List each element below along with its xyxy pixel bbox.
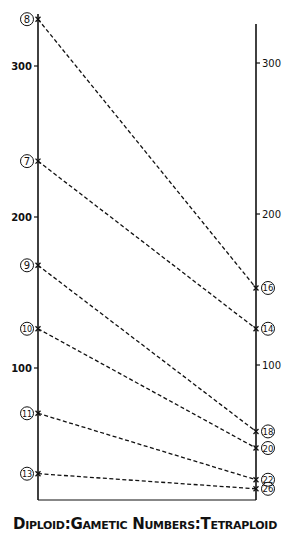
diploid-label: 10 xyxy=(22,325,32,334)
diploid-label: 8 xyxy=(24,14,30,25)
right-tick-label: 200 xyxy=(262,209,281,220)
series-line xyxy=(38,413,256,479)
diploid-label: 13 xyxy=(22,470,32,479)
diploid-label: 11 xyxy=(22,410,32,419)
chart-canvas: 100200300100200300816714918102011221326 xyxy=(0,0,290,542)
tetraploid-label: 14 xyxy=(263,324,274,334)
series-line xyxy=(38,329,256,448)
left-tick-label: 100 xyxy=(11,363,32,374)
diploid-label: 7 xyxy=(24,156,30,167)
right-tick-label: 100 xyxy=(262,360,281,371)
tetraploid-label: 16 xyxy=(263,283,274,293)
tetraploid-label: 26 xyxy=(263,484,274,494)
caption-diploid: Diploid xyxy=(13,515,65,533)
tetraploid-label: 18 xyxy=(263,427,274,437)
right-tick-label: 300 xyxy=(262,58,281,69)
series-line xyxy=(38,265,256,431)
tetraploid-label: 20 xyxy=(263,444,274,454)
left-tick-label: 300 xyxy=(11,61,32,72)
series-line xyxy=(38,161,256,329)
caption-tetraploid: Tetraploid xyxy=(201,515,278,533)
diploid-label: 9 xyxy=(24,260,30,271)
caption-gametic-numbers: Gametic Numbers xyxy=(70,515,194,533)
series-line xyxy=(38,19,256,288)
series-line xyxy=(38,474,256,489)
chart-caption: Diploid:Gametic Numbers:Tetraploid xyxy=(0,515,290,533)
left-tick-label: 200 xyxy=(11,212,32,223)
